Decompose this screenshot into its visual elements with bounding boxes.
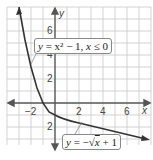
eq-left-tail: ≤ 0 [91, 40, 108, 52]
eq-right-rest: = −√ [71, 136, 95, 148]
y-axis-label: y [59, 9, 64, 19]
curve-parabola [19, 7, 55, 115]
y-tick-neg2: 2 [47, 122, 53, 132]
eq-right-tail: + 1 [100, 136, 117, 148]
equation-label-sqrt: y = −√x + 1 [62, 134, 121, 150]
eq-left-rest: = x² − 1, [43, 40, 86, 52]
x-tick-4: 4 [100, 107, 106, 117]
equation-label-parabola: y = x² − 1, x ≤ 0 [34, 38, 112, 54]
grid [7, 7, 151, 145]
x-tick-neg2: −2 [25, 107, 36, 117]
arrow-parabola [16, 7, 22, 15]
arrow-sqrt [141, 135, 150, 141]
x-axis-label: x [142, 106, 147, 116]
x-tick-2: 2 [76, 107, 82, 117]
callout-line-right [75, 122, 82, 134]
y-tick-6: 6 [47, 26, 53, 36]
x-tick-6: 6 [124, 107, 130, 117]
y-tick-2: 2 [47, 74, 53, 84]
